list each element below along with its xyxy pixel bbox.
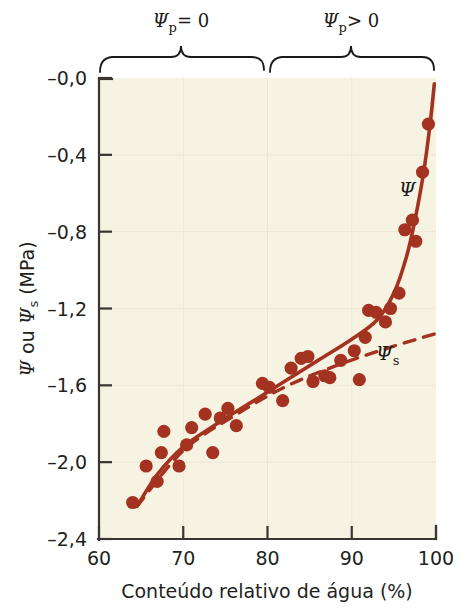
- brace-left-psi: Ψ: [153, 10, 170, 31]
- data-point: [180, 438, 193, 451]
- data-point: [206, 446, 219, 459]
- data-point: [416, 166, 429, 179]
- data-point: [384, 302, 397, 315]
- data-point: [406, 214, 419, 227]
- chart-svg: –0,0–0,4–0,8–1,2–1,6–2,0–2,4 60708090100…: [0, 0, 474, 616]
- y-tick-label: –2,0: [47, 451, 87, 473]
- data-point: [323, 371, 336, 384]
- svg-text:Ψ ou Ψs (MPa): Ψ ou Ψs (MPa): [16, 241, 41, 376]
- y-tick-label: –0,0: [47, 67, 87, 89]
- data-point: [157, 425, 170, 438]
- figure-root: –0,0–0,4–0,8–1,2–1,6–2,0–2,4 60708090100…: [0, 0, 474, 616]
- data-point: [155, 446, 168, 459]
- y-tick-label: –2,4: [47, 528, 87, 550]
- data-point: [284, 361, 297, 374]
- data-point: [126, 496, 139, 509]
- data-point: [263, 381, 276, 394]
- y-axis-title: Ψ ou Ψs (MPa): [16, 241, 41, 376]
- x-tick-label: 60: [87, 547, 111, 569]
- data-point: [306, 375, 319, 388]
- data-point: [276, 394, 289, 407]
- y-tick-label: –1,2: [47, 298, 87, 320]
- data-point: [379, 315, 392, 328]
- curve-label-psi-s-sub: s: [393, 353, 400, 368]
- data-point: [230, 419, 243, 432]
- brace-right-rel: > 0: [347, 10, 379, 31]
- data-point: [185, 421, 198, 434]
- data-point: [199, 408, 212, 421]
- x-tick-label: 100: [418, 547, 454, 569]
- curve-label-psi: Ψ: [399, 178, 417, 200]
- data-point: [334, 354, 347, 367]
- y-tick-label: –0,4: [47, 144, 87, 166]
- data-point: [151, 475, 164, 488]
- x-tick-label: 80: [255, 547, 279, 569]
- data-point: [140, 459, 153, 472]
- data-point: [301, 350, 314, 363]
- x-tick-label: 70: [171, 547, 195, 569]
- x-tick-label: 90: [340, 547, 364, 569]
- data-point: [172, 459, 185, 472]
- x-axis-title: Conteúdo relativo de água (%): [121, 580, 413, 602]
- data-point: [392, 287, 405, 300]
- brace-right-sub: p: [339, 20, 347, 35]
- data-point: [409, 235, 422, 248]
- data-point: [353, 373, 366, 386]
- brace-right-psi: Ψ: [323, 10, 340, 31]
- brace-left-rel: = 0: [177, 10, 209, 31]
- y-title-units: (MPa): [16, 241, 38, 301]
- data-point: [348, 344, 361, 357]
- data-point: [221, 402, 234, 415]
- data-point: [370, 306, 383, 319]
- y-title-psi-s: Ψ: [16, 306, 38, 324]
- y-tick-label: –1,6: [47, 374, 87, 396]
- y-title-psi: Ψ: [16, 359, 38, 377]
- data-point: [359, 331, 372, 344]
- curve-label-psi-s-symbol: Ψ: [376, 342, 394, 364]
- y-tick-label: –0,8: [47, 221, 87, 243]
- y-title-ou: ou: [16, 324, 38, 360]
- data-point: [422, 118, 435, 131]
- brace-left-sub: p: [169, 20, 177, 35]
